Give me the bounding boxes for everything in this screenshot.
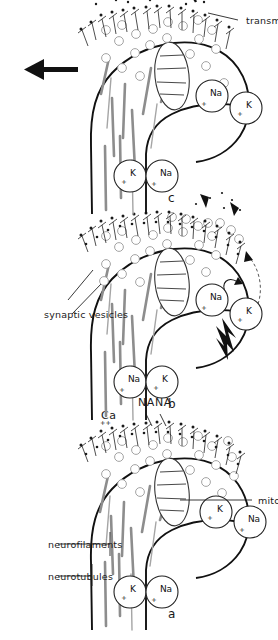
ion-charge: + [121,594,126,602]
label-calcium-a: Ca ++ [100,409,117,427]
ion-label: Na [210,292,222,302]
ion-charge: + [239,526,244,534]
neurofilaments-label: neurofilaments [48,539,122,550]
ion-charge: + [119,386,124,394]
ion-label: Na [210,88,222,98]
ion-Na-c-1: Na + [146,160,178,192]
ion-charge: + [237,316,242,324]
ion-label: Na [160,584,172,594]
terminal-membrane-lower [146,520,252,630]
ion-charge: + [237,110,242,118]
label-neurotubules: neurotubules [48,564,113,586]
ion-Na-a-1: Na + [146,576,178,608]
ion-charge: + [121,178,126,186]
panel-b: Na + K + Na + K + synaptic vesicles b [44,192,262,420]
ion-charge: + [151,180,156,188]
ion-Na-b-1: Na + [114,366,146,398]
action-potential-bolt [216,318,236,360]
ion-K-a-2: K + [200,496,232,528]
label-nana-a: NANA [138,396,172,426]
nana-label: NANA [138,396,172,409]
ion-flux-arrows-b [224,251,260,304]
synaptic-vesicles-label: synaptic vesicles [44,309,128,320]
neurotubules-label: neurotubules [48,571,113,582]
ion-charge: + [151,596,156,604]
mitochondrium-label: mitochondrium [258,495,278,506]
diagram-svg: Ca ++ NANA K + Na + K + Na + [0,0,278,640]
panel-letter-a: a [168,607,175,621]
label-synaptic-vesicles: synaptic vesicles [44,270,128,320]
panel-letter-c: c [168,191,175,205]
transmission-arrow: transmission [114,0,196,2]
direction-arrow [24,59,78,80]
transmitter-cloud [73,0,245,5]
ion-K-a-1: K + [114,576,146,608]
ion-K-c-1: K + [114,160,146,192]
ion-charge: + [201,100,206,108]
ion-charge: + [153,384,158,392]
calcium-charge: ++ [100,419,111,427]
ion-charge: + [201,304,206,312]
panel-c: transmitter transmission K + Na + Na + K… [24,0,278,214]
panel-a: Ca ++ NANA K + Na + K + Na + [48,396,278,630]
synapse-diagram: Ca ++ NANA K + Na + K + Na + [0,0,278,640]
ion-label: Na [248,514,260,524]
ion-Na-c-2: Na + [196,80,228,112]
ion-label: Na [160,168,172,178]
transmitter-label: transmitter [246,15,278,26]
panel-letter-b: b [168,397,176,411]
ion-K-b-2: K + [230,298,262,330]
ion-label: Na [128,374,140,384]
ion-Na-b-2: Na + [196,284,228,316]
ion-charge: + [207,514,212,522]
ion-K-b-1: K + [146,366,178,398]
ion-Na-a-2: Na + [234,506,266,538]
figure-rotator: Ca ++ NANA K + Na + K + Na + [0,0,278,640]
ion-K-c-2: K + [230,92,262,124]
